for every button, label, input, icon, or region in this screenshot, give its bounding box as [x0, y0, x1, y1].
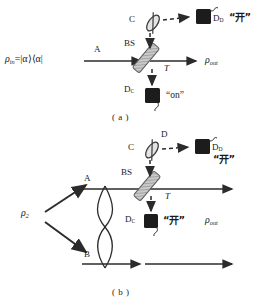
panel-b-bs-label: BS	[121, 168, 132, 177]
panel-a-ancilla-label: C	[129, 15, 135, 24]
detector-c-subscript: C	[131, 88, 135, 94]
panel-b-caption: ( b )	[112, 288, 130, 297]
panel-b-beamsplitter	[133, 171, 160, 201]
panel-a-detector-dd-reading: “开”	[229, 13, 251, 23]
panel-b-ancilla-element	[142, 139, 162, 161]
detector-c-subscript-b: C	[132, 218, 136, 224]
panel-a-detector-dd-label: DD	[213, 14, 224, 24]
panel-a-input-state: ρin=|α⟩⟨α|	[5, 54, 43, 65]
panel-b-detector-dc	[144, 214, 158, 236]
panel-b-detector-dc-label: DC	[125, 215, 135, 225]
panel-a-output-state: ρout	[205, 55, 218, 66]
optics-figure: ρin=|α⟩⟨α| A BS T C DD “开” DC “on” ρout …	[0, 0, 253, 307]
panel-b-arm-a-label: A	[84, 174, 91, 183]
panel-b-ancilla-label: C	[128, 143, 134, 152]
panel-b-detector-dc-reading: “开”	[163, 216, 185, 226]
panel-b-coupling-curves	[98, 186, 113, 268]
panel-a-ancilla-element	[143, 12, 163, 34]
panel-b-dashed-arrow-to-dd	[162, 147, 188, 149]
rho-out-subscript-b: out	[210, 219, 218, 226]
rho-expression: =|α⟩⟨α|	[15, 53, 43, 64]
panel-a-bs-label: BS	[124, 39, 135, 48]
panel-b-input-arrows	[45, 185, 86, 252]
panel-a-dashed-arrow-to-dd	[163, 17, 189, 20]
panel-a-detector-dc-label: DC	[124, 85, 134, 95]
panel-b-input-state: ρ2	[21, 208, 29, 219]
panel-b-output-state: ρout	[205, 215, 218, 226]
panel-a-arm-a-label: A	[94, 45, 101, 54]
panel-a-transmission-label: T	[164, 64, 169, 73]
rho-out-subscript: out	[210, 59, 218, 66]
panel-a-detector-dc	[145, 88, 160, 111]
panel-a-caption: ( a )	[112, 113, 129, 122]
panel-a-beamsplitter	[132, 43, 159, 73]
panel-b-detector-dd-reading: “开”	[213, 155, 235, 165]
detector-d-subscript-b: D	[219, 146, 223, 152]
panel-a-detector-dc-reading: “on”	[166, 91, 184, 101]
detector-d-subscript: D	[220, 17, 224, 23]
panel-b-mode-d-label: D	[161, 130, 168, 139]
panel-b-detector-dd-label: DD	[212, 143, 223, 153]
rho2-subscript: 2	[26, 212, 29, 219]
panel-b-arm-b-label: B	[84, 250, 90, 259]
panel-b-transmission-label: T	[165, 192, 170, 201]
